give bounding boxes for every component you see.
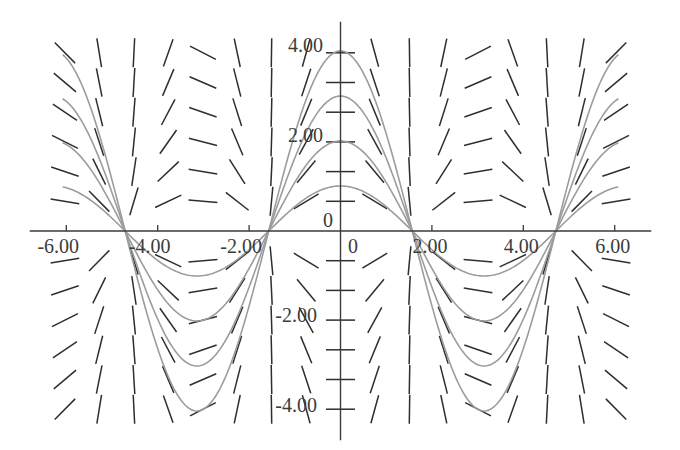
slope-segment xyxy=(133,38,134,67)
slope-segment xyxy=(163,69,174,96)
slope-segment xyxy=(438,129,449,156)
slope-segment xyxy=(546,306,549,335)
slope-segment xyxy=(163,366,174,393)
slope-segment xyxy=(233,98,242,126)
slope-segment xyxy=(577,306,586,334)
slope-segment xyxy=(51,258,80,263)
slope-segment xyxy=(96,98,103,126)
slope-segment xyxy=(155,195,181,207)
slope-segment xyxy=(439,98,448,126)
slope-segment xyxy=(229,278,245,303)
slope-segment xyxy=(409,98,410,127)
slope-segment xyxy=(603,135,629,148)
slope-segment xyxy=(297,160,315,182)
slope-segment xyxy=(366,160,384,182)
slope-segment xyxy=(604,104,628,120)
slope-segment xyxy=(294,253,319,268)
slope-segment xyxy=(232,307,243,334)
slope-segment xyxy=(158,280,179,300)
slope-segment xyxy=(602,167,629,176)
x-tick-label: -2.00 xyxy=(220,235,262,257)
slope-segment xyxy=(271,157,272,186)
slope-segment xyxy=(294,194,319,209)
slope-segment xyxy=(439,336,448,364)
slope-segment xyxy=(55,43,75,64)
slope-segment xyxy=(97,395,102,424)
x-tick-label: 6.00 xyxy=(595,235,630,257)
slope-segment xyxy=(271,365,272,394)
slope-segment xyxy=(502,162,523,182)
slope-segment xyxy=(465,77,492,88)
slope-segment xyxy=(366,279,384,301)
slope-segment xyxy=(440,68,447,96)
x-tick-label: -4.00 xyxy=(129,235,171,257)
slope-segment xyxy=(440,365,447,393)
slope-segment xyxy=(232,129,243,156)
slope-segment xyxy=(189,345,216,354)
x-tick-label: 4.00 xyxy=(504,235,539,257)
slope-segment xyxy=(441,395,447,423)
slope-segment xyxy=(160,130,177,154)
slope-segment xyxy=(132,276,136,305)
slope-segment xyxy=(465,46,491,59)
slope-segment xyxy=(578,336,585,364)
slope-segment xyxy=(507,366,518,393)
slope-segment xyxy=(545,276,549,305)
x-origin-label: 0 xyxy=(348,235,358,257)
y-tick-label: -4.00 xyxy=(275,394,317,416)
slope-segment xyxy=(438,307,449,334)
slope-segment xyxy=(507,69,518,96)
slope-segment xyxy=(508,39,518,66)
slope-segment xyxy=(371,39,379,67)
slope-segment xyxy=(270,246,273,275)
slope-segment xyxy=(190,374,217,385)
slope-segment xyxy=(301,336,312,363)
slope-segment xyxy=(409,157,410,186)
slope-segment xyxy=(96,365,102,393)
slope-segment xyxy=(602,199,631,204)
slope-segment xyxy=(89,250,109,271)
slope-segment xyxy=(500,195,526,207)
slope-segment xyxy=(605,73,627,92)
slope-segment xyxy=(409,276,410,305)
slope-segment xyxy=(362,194,387,209)
slope-segment xyxy=(189,138,217,145)
slope-segment xyxy=(362,253,387,268)
slope-segment xyxy=(545,157,549,186)
slope-segment xyxy=(226,192,249,210)
slope-segment xyxy=(96,68,102,96)
slope-segment xyxy=(508,396,518,423)
slope-segment xyxy=(189,107,216,116)
slope-segment xyxy=(408,187,411,216)
slope-segment xyxy=(436,278,452,303)
slope-segment xyxy=(54,73,76,92)
tick-labels: 0 0 -6.00-4.00-2.002.004.006.004.002.00-… xyxy=(37,34,630,416)
y-tick-label: 4.00 xyxy=(288,34,323,56)
slope-segment xyxy=(297,279,315,301)
slope-segment xyxy=(132,157,136,186)
slope-segment xyxy=(506,99,520,125)
slope-segment xyxy=(190,77,217,88)
slope-segment xyxy=(271,276,272,305)
slope-segment xyxy=(54,370,76,389)
slope-segment xyxy=(464,138,492,145)
slope-segment xyxy=(579,68,585,96)
slope-segment xyxy=(190,46,216,59)
slope-segment xyxy=(504,130,521,154)
slope-segment xyxy=(234,395,240,423)
slope-segment xyxy=(606,43,626,64)
slope-segment xyxy=(51,199,80,204)
slope-segment xyxy=(163,39,173,66)
slope-segment xyxy=(603,314,629,327)
slope-segment xyxy=(409,68,410,97)
y-tick-label: 2.00 xyxy=(288,124,323,146)
slope-segment xyxy=(97,38,102,67)
slope-segment xyxy=(432,192,455,210)
slope-segment xyxy=(464,200,493,202)
slope-segment xyxy=(271,335,272,364)
slope-segment xyxy=(572,250,592,271)
x-tick-label: 2.00 xyxy=(412,235,447,257)
slope-segment xyxy=(408,246,411,275)
slope-segment xyxy=(130,187,138,215)
slope-field-chart: 0 0 -6.00-4.00-2.002.004.006.004.002.00-… xyxy=(0,0,680,450)
